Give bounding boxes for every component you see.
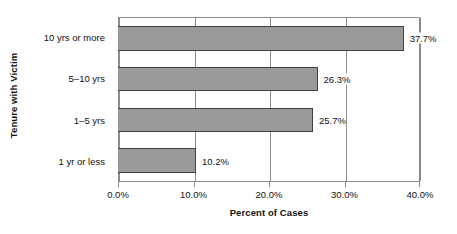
y-axis-tick-labels: 10 yrs or more 5–10 yrs 1–5 yrs 1 yr or … bbox=[28, 17, 112, 182]
bar-value-label: 37.7% bbox=[404, 33, 437, 44]
bar-chart: Tenure with Victim 10 yrs or more 5–10 y… bbox=[0, 0, 457, 234]
bar bbox=[118, 148, 196, 172]
x-axis-tick bbox=[118, 182, 119, 187]
bar-band: 25.7% bbox=[119, 100, 419, 141]
plot-area: 37.7% 26.3% 25.7% 10.2% bbox=[118, 17, 420, 182]
bar bbox=[118, 67, 318, 91]
y-axis-title: Tenure with Victim bbox=[0, 0, 28, 190]
x-axis-tick bbox=[419, 182, 420, 187]
x-axis-tick-labels: 0.0%10.0%20.0%30.0%40.0% bbox=[118, 189, 420, 203]
bar bbox=[118, 26, 404, 50]
bars-layer: 37.7% 26.3% 25.7% 10.2% bbox=[119, 18, 419, 181]
y-axis-title-text: Tenure with Victim bbox=[9, 52, 20, 137]
y-tick-label: 10 yrs or more bbox=[28, 17, 112, 58]
x-axis-tick-label: 30.0% bbox=[331, 189, 358, 200]
x-axis-tick-label: 10.0% bbox=[180, 189, 207, 200]
x-axis-tick-label: 20.0% bbox=[256, 189, 283, 200]
bar-band: 26.3% bbox=[119, 59, 419, 100]
bar-band: 10.2% bbox=[119, 140, 419, 181]
x-axis-tick bbox=[194, 182, 195, 187]
bar bbox=[118, 108, 313, 132]
bar-value-label: 25.7% bbox=[313, 114, 346, 125]
x-axis-tick bbox=[345, 182, 346, 187]
x-axis-tick bbox=[269, 182, 270, 187]
x-axis-ticks bbox=[118, 182, 420, 188]
y-tick-label: 5–10 yrs bbox=[28, 58, 112, 99]
bar-value-label: 10.2% bbox=[196, 155, 229, 166]
y-tick-label: 1–5 yrs bbox=[28, 100, 112, 141]
bar-value-label: 26.3% bbox=[318, 74, 351, 85]
x-axis-tick-label: 40.0% bbox=[407, 189, 434, 200]
bar-band: 37.7% bbox=[119, 18, 419, 59]
y-tick-label: 1 yr or less bbox=[28, 141, 112, 182]
x-axis-tick-label: 0.0% bbox=[107, 189, 129, 200]
x-axis-title: Percent of Cases bbox=[118, 207, 420, 218]
